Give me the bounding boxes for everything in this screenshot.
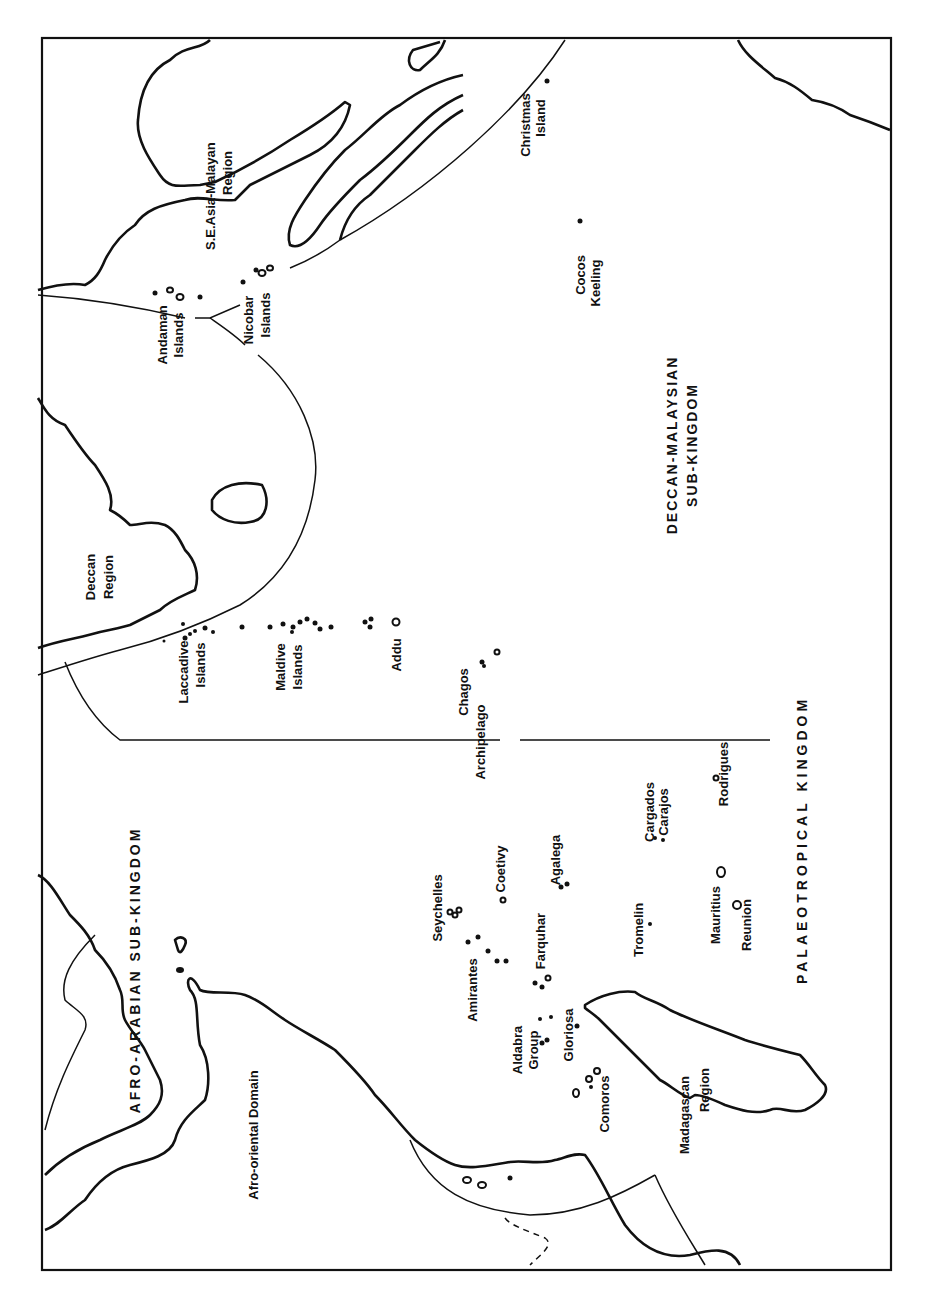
island-tromelin: [648, 922, 652, 926]
svg-text:Island: Island: [533, 99, 548, 137]
label-seychelles: Seychelles: [430, 874, 445, 941]
islands-chagos: [480, 650, 500, 669]
label-andaman-islands: Andaman Islands: [155, 305, 186, 364]
boundary-dashed: [505, 1218, 548, 1265]
island-cocos: [578, 219, 583, 224]
label-nicobar-islands: Nicobar Islands: [241, 293, 273, 345]
svg-text:Islands: Islands: [193, 643, 208, 688]
map-frame: [42, 38, 891, 1270]
boundary-laccadive-hook: [65, 662, 440, 740]
svg-text:Region: Region: [101, 555, 116, 599]
label-farquhar: Farquhar: [533, 913, 548, 969]
label-agalega: Agalega: [548, 834, 563, 885]
island-zanzibar: [463, 1177, 471, 1183]
coast-sri-lanka: [212, 483, 266, 523]
islands-comoros: [573, 1068, 600, 1097]
svg-text:Keeling: Keeling: [588, 259, 603, 306]
island-mafia: [508, 1176, 513, 1181]
coast-sumatra: [289, 75, 463, 246]
boundary-fork-b: [210, 318, 245, 345]
label-mauritius: Mauritius: [708, 886, 723, 944]
label-laccadive-islands: Laccadive Islands: [176, 641, 208, 704]
label-reunion: Reunion: [739, 899, 754, 951]
islands-addu-group: [363, 617, 374, 630]
label-afro-oriental-domain: Afro-oriental Domain: [246, 1070, 261, 1199]
label-amirantes: Amirantes: [465, 958, 480, 1022]
coast-socotra: [175, 938, 186, 953]
svg-text:Cocos: Cocos: [573, 255, 588, 295]
island-pemba: [478, 1182, 486, 1188]
svg-text:Cargados: Cargados: [642, 782, 657, 842]
label-deccan-malaysian-sub-kingdom: DECCAN-MALAYSIAN SUB-KINGDOM: [664, 356, 700, 535]
svg-text:Region: Region: [220, 151, 235, 195]
label-cargados-carajos: Cargados Carajos: [642, 782, 671, 842]
svg-text:Madagascan: Madagascan: [677, 1076, 692, 1154]
coast-australia: [738, 40, 890, 130]
islands-nicobar: [241, 266, 274, 285]
svg-text:Islands: Islands: [258, 293, 273, 338]
label-cocos-keeling: Cocos Keeling: [573, 255, 603, 306]
boundary-arabia-inner: [45, 935, 95, 1130]
island-mauritius: [717, 867, 725, 877]
svg-text:Islands: Islands: [290, 645, 305, 690]
island-addu: [393, 619, 400, 626]
svg-text:Archipelago: Archipelago: [473, 704, 488, 779]
biogeographic-map: S.E.Asia-Malayan Region Andaman Islands …: [0, 0, 926, 1300]
label-madagascan-region: Madagascan Region: [677, 1068, 712, 1154]
islands-seychelles: [448, 908, 462, 918]
label-addu: Addu: [389, 638, 404, 671]
svg-text:Chagos: Chagos: [456, 668, 471, 716]
boundary-deccan-arc: [38, 355, 316, 675]
svg-text:Christmas: Christmas: [518, 93, 533, 157]
svg-text:Maldive: Maldive: [273, 643, 288, 691]
label-gloriosa: Gloriosa: [561, 1008, 576, 1062]
coast-java: [340, 110, 463, 240]
svg-text:Deccan: Deccan: [83, 554, 98, 600]
coast-se-asia: [38, 40, 350, 290]
boundary-fork-a: [195, 305, 240, 318]
label-comoros: Comoros: [597, 1075, 612, 1132]
svg-text:Group: Group: [526, 1030, 541, 1069]
label-maldive-islands: Maldive Islands: [273, 643, 305, 691]
svg-text:Nicobar: Nicobar: [241, 296, 256, 344]
label-aldabra-group: Aldabra Group: [510, 1025, 541, 1074]
svg-text:Andaman: Andaman: [155, 305, 170, 364]
svg-text:Islands: Islands: [171, 313, 186, 358]
boundary-madagascar-arc: [410, 1140, 655, 1215]
coast-arabia: [38, 875, 162, 1175]
label-chagos-archipelago: Chagos Archipelago: [456, 668, 488, 779]
label-tromelin: Tromelin: [631, 903, 646, 957]
label-christmas-island: Christmas Island: [518, 93, 548, 157]
label-se-asia-region: S.E.Asia-Malayan Region: [203, 142, 235, 250]
svg-text:Carajos: Carajos: [656, 788, 671, 836]
label-deccan-region: Deccan Region: [83, 554, 116, 600]
label-palaeotropical-kingdom: PALAEOTROPICAL KINGDOM: [794, 696, 810, 984]
label-coetivy: Coetivy: [493, 845, 508, 893]
islands-maldive: [268, 617, 334, 635]
coast-africa: [45, 978, 740, 1265]
label-afro-arabian-sub-kingdom: AFRO-ARABIAN SUB-KINGDOM: [127, 827, 143, 1114]
coast-deccan: [38, 398, 197, 648]
svg-text:Aldabra: Aldabra: [510, 1025, 525, 1074]
svg-text:DECCAN-MALAYSIAN: DECCAN-MALAYSIAN: [664, 356, 680, 535]
islands-farquhar: [533, 976, 551, 990]
svg-text:S.E.Asia-Malayan: S.E.Asia-Malayan: [203, 142, 218, 250]
island-coetivy: [501, 898, 506, 903]
coast-malay-peninsula: [409, 40, 445, 70]
islands-andaman: [153, 288, 203, 301]
island-laccadive-outlier: [240, 625, 245, 630]
boundary-southern: [655, 1175, 705, 1265]
islands-laccadive: [163, 622, 216, 643]
island-christmas: [545, 79, 550, 84]
label-rodrigues: Rodrigues: [716, 742, 731, 806]
svg-text:SUB-KINGDOM: SUB-KINGDOM: [684, 383, 700, 507]
svg-text:Region: Region: [697, 1068, 712, 1112]
svg-text:Laccadive: Laccadive: [176, 641, 191, 704]
island-abd-al-kuri: [176, 967, 184, 973]
